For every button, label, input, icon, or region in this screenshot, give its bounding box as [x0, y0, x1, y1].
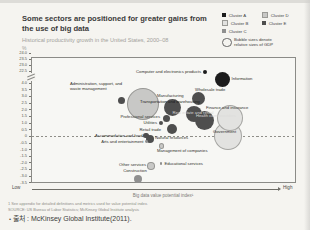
label-construction: Construction: [123, 169, 147, 174]
y-tick-mark: [29, 89, 31, 90]
legend-label: Cluster A: [229, 13, 246, 18]
scanned-slide: Some sectors are positioned for greater …: [0, 0, 310, 230]
y-tick-label: 0.5: [6, 128, 27, 132]
y-tick-label: -2.5: [6, 167, 27, 171]
y-tick-label: 3.5: [6, 88, 27, 92]
citation-text: 출처 : McKinsey Global Institute(2011).: [13, 215, 131, 222]
legend-item-cluster-a: Cluster A: [222, 12, 246, 18]
label-administration-support-and-waste-management: Administration, support, and waste manag…: [70, 82, 122, 92]
label-government: Government: [213, 129, 236, 134]
y-tick-label: 1.5: [6, 114, 27, 118]
y-tick-mark: [29, 143, 31, 144]
label-finance-and-insurance: Finance and insurance: [206, 105, 248, 110]
bubble-administration-support-and-waste-management: [118, 97, 125, 104]
y-tick-label: 2.5: [6, 101, 27, 105]
legend-item-cluster-b: Cluster B: [222, 20, 248, 26]
y-tick-mark: [29, 65, 31, 66]
y-tick-mark: [29, 156, 31, 157]
y-tick-label: -0.5: [6, 141, 27, 145]
label-arts-and-entertainment: Arts and entertainment: [101, 139, 143, 144]
legend-label: Cluster C: [229, 29, 247, 34]
y-tick-label: 24.0: [6, 51, 27, 55]
y-tick-mark: [29, 103, 31, 104]
x-axis-title: Big data value potential index¹: [80, 193, 246, 198]
legend-label: Cluster E: [269, 21, 287, 26]
x-axis-arrow: [32, 189, 278, 190]
y-tick-label: -2.0: [6, 161, 27, 165]
label-transportation-and-warehousing: Transportation and warehousing: [140, 99, 200, 104]
label-computer-and-electronics-products: Computer and electronics products: [136, 70, 201, 75]
legend-bubble-size-note: Bubble sizes denote relative sizes of GD…: [222, 37, 273, 47]
y-tick-mark: [29, 116, 31, 117]
legend-item-cluster-e: Cluster E: [262, 20, 286, 26]
y-tick-mark: [29, 123, 31, 124]
y-tick-mark: [29, 129, 31, 130]
bubble-arts-and-entertainment: [145, 140, 148, 143]
legend-label: Cluster B: [231, 21, 249, 26]
y-tick-label: 23.5: [6, 57, 27, 61]
y-tick-mark: [29, 176, 31, 177]
label-health-care-providers: Health care providers: [196, 113, 236, 118]
chart-title: Some sectors are positioned for greater …: [22, 14, 222, 33]
legend-swatch-icon: [262, 12, 268, 18]
bubble-other-services: [147, 162, 155, 170]
y-tick-label: 0: [6, 134, 27, 138]
y-tick-label: 3.0: [6, 94, 27, 98]
y-tick-mark: [29, 136, 31, 137]
chart-title-line1: Some sectors are positioned for greater …: [22, 14, 207, 23]
y-axis-break-icon: [26, 73, 36, 81]
y-tick-mark: [29, 53, 31, 54]
y-tick-mark: [29, 162, 31, 163]
legend-swatch-icon: [222, 29, 226, 33]
y-tick-mark: [29, 96, 31, 97]
legend-swatch-icon: [222, 13, 226, 17]
source-line: SOURCE: US Bureau of Labor Statistics; M…: [8, 207, 298, 212]
y-tick-label: 4.0: [6, 81, 27, 85]
x-axis-low-label: Low: [12, 185, 20, 190]
legend-item-cluster-d: Cluster D: [262, 12, 289, 18]
scan-artifact-top: [0, 0, 310, 3]
y-tick-label: -1.5: [6, 154, 27, 158]
y-tick-label: -3.0: [6, 174, 27, 178]
y-tick-label: 1.0: [6, 121, 27, 125]
bubble-retail-trade: [167, 124, 177, 134]
x-axis-high-label: High: [283, 185, 292, 190]
scan-artifact-right: [304, 0, 310, 230]
bubble-size-icon: [222, 38, 232, 48]
label-wholesale-trade: Wholesale trade: [195, 88, 225, 93]
bubble-accommodation-and-food: [143, 133, 148, 138]
y-tick-mark: [29, 169, 31, 170]
bubble-information: [215, 72, 230, 87]
chart-title-line2: the use of big data: [22, 24, 89, 33]
legend-swatch-icon: [222, 20, 228, 26]
y-tick-mark: [29, 83, 31, 84]
legend-item-cluster-c: Cluster C: [222, 28, 247, 34]
y-tick-label: 23.0: [6, 63, 27, 67]
y-tick-mark: [29, 71, 31, 72]
arrowhead-icon: [278, 187, 281, 191]
bullet-icon: •: [9, 216, 11, 222]
label-information: Information: [232, 77, 253, 82]
y-tick-label: 22.5: [6, 69, 27, 73]
label-educational-services: Educational services: [165, 161, 203, 166]
y-tick-mark: [29, 59, 31, 60]
y-tick-mark: [29, 182, 31, 183]
legend-label: Cluster D: [271, 13, 289, 18]
chart-subtitle: Historical productivity growth in the Un…: [22, 37, 232, 43]
bubble-professional-services: [163, 115, 170, 122]
y-tick-label: -1.0: [6, 148, 27, 152]
y-tick-mark: [29, 109, 31, 110]
y-tick-label: 2.0: [6, 108, 27, 112]
legend-swatch-icon: [262, 21, 266, 25]
legend-note-text: Bubble sizes denote relative sizes of GD…: [234, 37, 273, 47]
footnote: 1 See appendix for detailed definitions …: [8, 201, 298, 206]
label-natural-resources: Natural resources: [155, 135, 188, 140]
y-tick-mark: [29, 149, 31, 150]
label-management-of-companies: Management of companies: [157, 148, 208, 153]
citation-line: •출처 : McKinsey Global Institute(2011).: [9, 213, 304, 223]
label-utilities: Utilities: [144, 121, 158, 126]
